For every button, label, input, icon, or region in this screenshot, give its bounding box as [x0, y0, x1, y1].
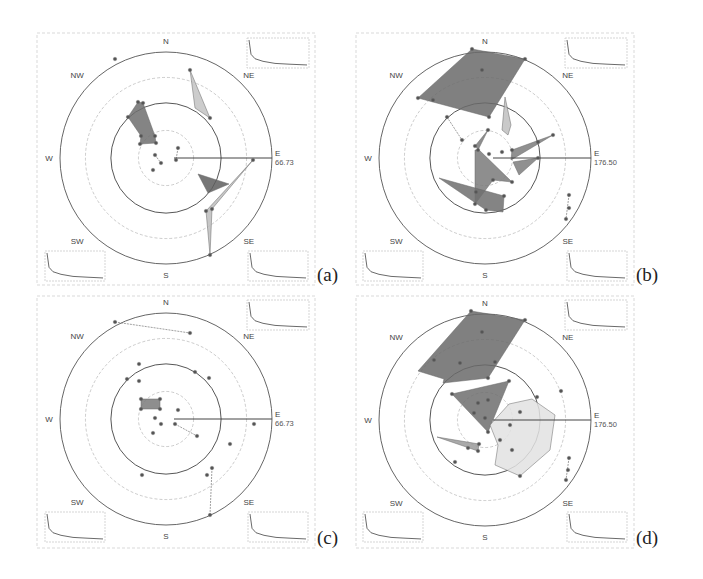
data-point: [486, 430, 490, 434]
data-point: [460, 138, 464, 142]
data-point: [486, 376, 490, 380]
data-point: [476, 401, 480, 405]
data-point: [188, 331, 192, 335]
panel-caption: (d): [636, 527, 658, 549]
sparkline-se: [250, 253, 306, 278]
sparkline-ne: [249, 40, 307, 65]
link-line: [115, 322, 190, 333]
data-point: [208, 513, 212, 517]
data-point: [518, 474, 522, 478]
data-point: [523, 57, 527, 61]
panel-d: NNESESSWWNWE176.50(d): [356, 296, 658, 549]
direction-label-ne: NE: [562, 333, 573, 342]
direction-label-e: E: [275, 410, 280, 419]
panel-caption: (b): [636, 264, 658, 286]
direction-label-sw: SW: [390, 499, 403, 508]
data-point: [486, 398, 490, 402]
data-point: [502, 194, 506, 198]
direction-label-e: E: [275, 149, 280, 158]
data-point: [480, 68, 484, 72]
data-point: [500, 150, 504, 154]
link-line: [447, 117, 462, 140]
data-point: [208, 116, 212, 120]
data-point: [472, 411, 476, 415]
direction-label-n: N: [482, 299, 488, 308]
data-point: [137, 379, 141, 383]
data-point: [535, 395, 539, 399]
data-point: [174, 158, 178, 162]
cluster-polygon: [490, 399, 555, 476]
cluster-polygon: [128, 102, 156, 144]
data-point: [153, 153, 157, 157]
data-point: [139, 407, 143, 411]
direction-label-n: N: [163, 37, 169, 46]
data-point: [176, 408, 180, 412]
direction-label-ne: NE: [243, 71, 254, 80]
cluster-polygon: [439, 178, 504, 212]
cluster-polygon: [502, 97, 511, 135]
data-point: [139, 397, 143, 401]
direction-label-nw: NW: [390, 333, 404, 342]
data-point: [536, 156, 540, 160]
cluster-polygon: [190, 70, 210, 118]
link-line: [175, 424, 197, 436]
direction-label-sw: SW: [71, 498, 84, 507]
direction-label-e: E: [594, 149, 599, 158]
data-point: [477, 442, 481, 446]
direction-label-s: S: [163, 271, 168, 280]
direction-label-w: W: [45, 154, 53, 163]
data-point: [566, 468, 570, 472]
scale-value: 66.73: [275, 419, 294, 428]
cluster-polygon: [437, 437, 479, 451]
data-point: [113, 320, 117, 324]
direction-label-s: S: [482, 271, 487, 280]
data-point: [473, 144, 477, 148]
direction-label-nw: NW: [71, 332, 85, 341]
direction-label-e: E: [594, 411, 599, 420]
data-point: [151, 431, 155, 435]
data-point: [207, 376, 211, 380]
cluster-polygon: [418, 49, 525, 117]
cluster-polygon: [418, 311, 525, 383]
sparkline-ne: [249, 302, 307, 327]
data-point: [518, 410, 522, 414]
sparkline-sw: [365, 514, 421, 539]
data-point: [140, 473, 144, 477]
data-point: [176, 146, 180, 150]
data-point: [159, 161, 163, 165]
sparkline-se: [569, 253, 625, 278]
data-point: [473, 202, 477, 206]
data-point: [476, 148, 480, 152]
data-point: [151, 168, 155, 172]
data-point: [458, 361, 462, 365]
data-point: [523, 318, 527, 322]
scale-value: 176.50: [594, 158, 617, 167]
data-point: [483, 416, 487, 420]
data-point: [158, 397, 162, 401]
direction-label-nw: NW: [390, 71, 404, 80]
data-point: [137, 362, 141, 366]
direction-label-ne: NE: [243, 332, 254, 341]
data-point: [484, 208, 488, 212]
scale-value: 66.73: [275, 158, 294, 167]
data-point: [487, 152, 491, 156]
panel-b: NNESESSWWNWE176.50(b): [356, 33, 658, 286]
data-point: [486, 128, 490, 132]
link-line: [210, 468, 212, 515]
data-point: [126, 115, 130, 119]
sparkline-sw: [47, 253, 103, 278]
direction-label-sw: SW: [71, 237, 84, 246]
sparkline-sw: [365, 253, 421, 278]
direction-label-se: SE: [562, 499, 573, 508]
direction-label-w: W: [45, 415, 53, 424]
data-point: [432, 358, 436, 362]
data-point: [210, 207, 214, 211]
data-point: [188, 68, 192, 72]
data-point: [251, 158, 255, 162]
data-point: [476, 449, 480, 453]
sparkline-ne: [567, 302, 625, 327]
cluster-polygon: [141, 399, 160, 409]
sparkline-se: [569, 514, 625, 539]
data-point: [567, 193, 571, 197]
direction-label-s: S: [163, 532, 168, 541]
